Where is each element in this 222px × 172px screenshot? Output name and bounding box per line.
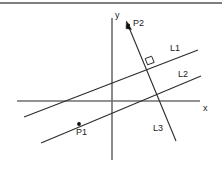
line-l1 xyxy=(24,50,198,117)
x-axis-label: x xyxy=(203,104,208,113)
line-l3 xyxy=(128,25,176,141)
point-p1-label: P1 xyxy=(76,128,87,137)
line-l2 xyxy=(41,76,201,143)
geometry-figure: y x L1 L2 L3 P1 P2 xyxy=(0,0,222,172)
right-angle-icon xyxy=(145,56,154,65)
figure-canvas xyxy=(0,0,222,172)
line-l1-label: L1 xyxy=(170,44,180,53)
point-p2-dot xyxy=(127,23,130,26)
line-l3-label: L3 xyxy=(153,124,163,133)
point-p1-dot xyxy=(77,122,81,126)
line-l2-label: L2 xyxy=(178,70,188,79)
y-axis-label: y xyxy=(115,11,120,20)
point-p2-label: P2 xyxy=(133,19,144,28)
